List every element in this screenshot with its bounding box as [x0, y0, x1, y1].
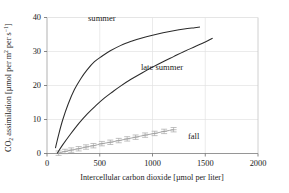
y-tick-label-0: 0: [37, 149, 41, 158]
y-tick-label-30: 30: [33, 47, 41, 56]
x-axis-title: Intercellular carbon dioxide [µmol per l…: [80, 173, 224, 182]
x-tick-label-500: 500: [93, 159, 106, 168]
y-axis-title-mid2: per s: [4, 32, 13, 50]
series-annotation-late-summer: late summer: [141, 62, 183, 72]
y-tick-label-40: 40: [33, 13, 41, 22]
y-axis-title-mid: assimilation [µmol per m: [4, 52, 13, 137]
y-axis-title: CO2 assimilation [µmol per m2 per s−1]: [3, 23, 14, 152]
x-tick-label-1500: 1500: [197, 159, 214, 168]
series-annotation-fall: fall: [188, 131, 200, 141]
series-annotation-summer: summer: [88, 13, 116, 23]
x-tick-label-1000: 1000: [144, 159, 161, 168]
y-axis-title-co: CO: [4, 141, 13, 152]
y-axis-title-tail: ]: [4, 23, 13, 26]
y-tick-label-20: 20: [33, 81, 41, 90]
y-tick-label-10: 10: [33, 115, 41, 124]
x-tick-label-0: 0: [45, 159, 49, 168]
co2-assimilation-chart: 0 10 20 30 40 0 500 1000 1500 2000 summe…: [0, 0, 289, 193]
chart-figure: 0 10 20 30 40 0 500 1000 1500 2000 summe…: [0, 0, 289, 193]
x-tick-label-2000: 2000: [250, 159, 267, 168]
